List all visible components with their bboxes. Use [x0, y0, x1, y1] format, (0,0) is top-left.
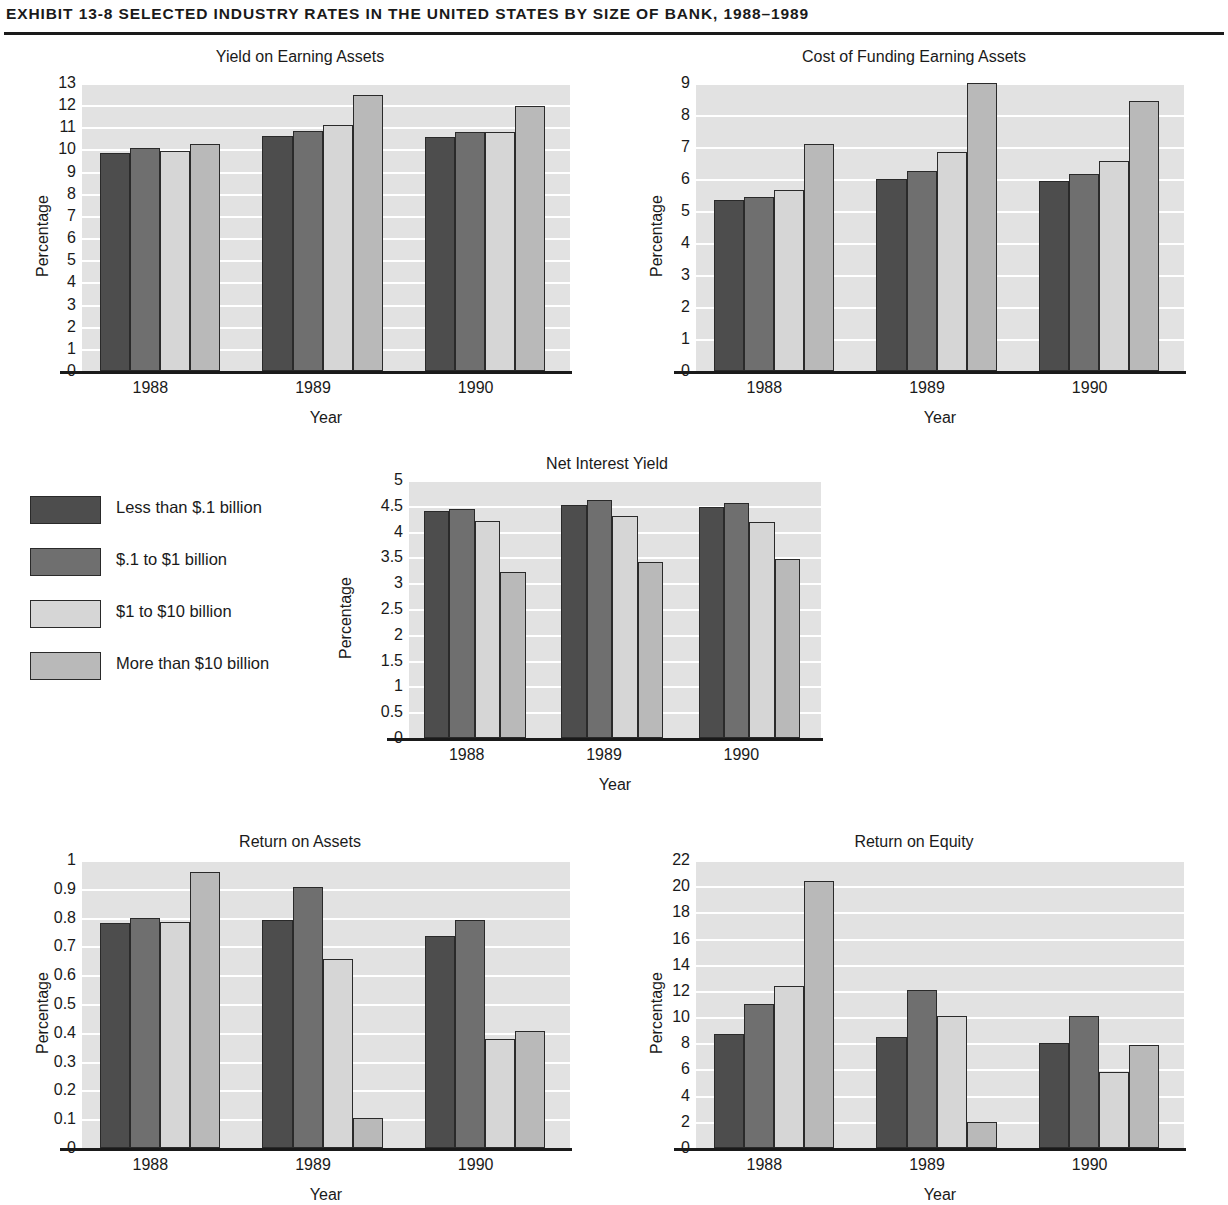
y-axis-tick: 18 — [672, 903, 690, 921]
gridline — [696, 83, 1184, 85]
gridline — [82, 860, 570, 862]
y-axis-tick: 11 — [59, 118, 76, 136]
y-axis-tick: 0.7 — [54, 937, 76, 955]
y-axis-tick: 3.5 — [381, 548, 403, 566]
bar — [699, 507, 724, 738]
x-axis-tick: 1988 — [747, 1156, 783, 1174]
y-axis-tick: 0.5 — [381, 703, 403, 721]
gridline — [82, 105, 570, 107]
y-axis-tick: 4 — [681, 1087, 690, 1105]
bar — [714, 1034, 744, 1148]
y-axis-label: Percentage — [648, 972, 666, 1054]
y-axis-tick: 0.9 — [54, 880, 76, 898]
bar — [937, 1016, 967, 1148]
y-axis-label: Percentage — [648, 195, 666, 277]
bar — [262, 136, 292, 371]
gridline — [82, 83, 570, 85]
bar — [1069, 1016, 1099, 1148]
bar — [1039, 181, 1069, 371]
y-axis-tick: 6 — [67, 229, 76, 247]
y-axis-tick: 5 — [394, 471, 403, 489]
bar — [1069, 174, 1099, 371]
y-axis-tick: 3 — [394, 574, 403, 592]
plot-area — [409, 480, 821, 738]
y-axis-tick: 9 — [67, 163, 76, 181]
x-axis-tick: 1990 — [1072, 1156, 1108, 1174]
bar — [967, 1122, 997, 1148]
x-axis-tick: 1989 — [295, 1156, 331, 1174]
x-axis-tick: 1988 — [133, 379, 169, 397]
x-axis-label: Year — [924, 409, 956, 427]
y-axis-label: Percentage — [34, 972, 52, 1054]
gridline — [696, 886, 1184, 888]
x-axis-tick: 1988 — [747, 379, 783, 397]
bar — [100, 923, 130, 1148]
y-axis-tick: 3 — [67, 296, 76, 314]
gridline — [696, 860, 1184, 862]
legend-swatch — [30, 652, 101, 680]
y-axis-tick: 12 — [58, 96, 76, 114]
bar — [1099, 1072, 1129, 1148]
bar — [876, 1037, 906, 1148]
bar — [190, 872, 220, 1148]
y-axis-tick: 7 — [681, 138, 690, 156]
bar — [937, 152, 967, 371]
header-divider — [4, 32, 1224, 35]
legend-label: $1 to $10 billion — [116, 602, 232, 621]
bar — [876, 179, 906, 371]
bar — [293, 887, 323, 1148]
bar — [353, 1118, 383, 1148]
y-axis-tick: 3 — [681, 266, 690, 284]
bar — [160, 151, 190, 371]
bar — [190, 144, 220, 371]
legend-swatch — [30, 548, 101, 576]
bar — [774, 986, 804, 1148]
gridline — [696, 991, 1184, 993]
gridline — [696, 115, 1184, 117]
exhibit-header: EXHIBIT 13-8 SELECTED INDUSTRY RATES IN … — [0, 0, 1228, 40]
y-axis-tick: 1 — [394, 677, 403, 695]
bar — [130, 148, 160, 371]
y-axis-tick: 10 — [58, 140, 76, 158]
legend-swatch — [30, 496, 101, 524]
y-axis-tick: 4 — [67, 273, 76, 291]
y-axis-tick: 8 — [681, 1034, 690, 1052]
bar — [744, 1004, 774, 1148]
bar — [561, 505, 586, 738]
x-axis-tick: 1989 — [586, 746, 622, 764]
legend-item: $1 to $10 billion — [30, 596, 330, 648]
bar — [424, 511, 449, 738]
legend-label: $.1 to $1 billion — [116, 550, 227, 569]
bar — [449, 509, 474, 738]
x-axis-tick: 1988 — [449, 746, 485, 764]
y-axis-tick: 0 — [394, 729, 403, 747]
chart-title: Yield on Earning Assets — [0, 48, 600, 66]
gridline — [696, 912, 1184, 914]
gridline — [696, 965, 1184, 967]
y-axis-tick: 0.1 — [54, 1110, 76, 1128]
bar — [323, 125, 353, 371]
bar — [967, 83, 997, 371]
gridline — [82, 889, 570, 891]
gridline — [696, 147, 1184, 149]
gridline — [409, 506, 821, 508]
chart-panel-yield-on-earning-assets: Yield on Earning Assets01234567891011121… — [0, 48, 600, 441]
legend-item: Less than $.1 billion — [30, 492, 330, 544]
y-axis-tick: 0 — [681, 1139, 690, 1157]
x-axis-tick: 1989 — [909, 1156, 945, 1174]
x-axis-tick: 1990 — [458, 1156, 494, 1174]
plot-area — [696, 860, 1184, 1148]
y-axis-tick: 0.2 — [54, 1081, 76, 1099]
y-axis-tick: 0.3 — [54, 1053, 76, 1071]
legend-label: More than $10 billion — [116, 654, 269, 673]
y-axis-tick: 0.5 — [54, 995, 76, 1013]
chart-title: Return on Equity — [614, 833, 1214, 851]
bar — [744, 197, 774, 371]
x-axis-line — [674, 371, 1186, 374]
chart-legend: Less than $.1 billion$.1 to $1 billion$1… — [30, 492, 330, 700]
y-axis-tick: 0 — [67, 362, 76, 380]
bar — [638, 562, 663, 738]
gridline — [409, 480, 821, 482]
plot-area — [82, 83, 570, 371]
y-axis-tick: 2 — [681, 1113, 690, 1131]
